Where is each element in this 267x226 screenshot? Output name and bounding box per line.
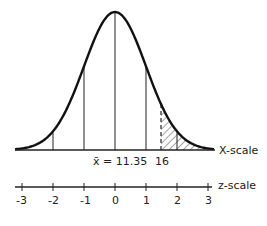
mean-label: x̄ = 11.35 — [93, 156, 147, 168]
marked-value-label: 16 — [155, 156, 169, 168]
x-scale-label: X-scale — [219, 145, 258, 157]
z-tick-label: -2 — [48, 195, 59, 207]
z-tick-label: 3 — [205, 195, 212, 207]
vertical-lines — [22, 13, 208, 150]
normal-curve-diagram — [0, 0, 267, 226]
z-scale-axis — [15, 183, 212, 191]
z-tick-label: 2 — [174, 195, 181, 207]
shaded-tail-region — [161, 104, 212, 150]
z-tick-label: -3 — [16, 195, 27, 207]
z-tick-label: -1 — [80, 195, 91, 207]
z-tick-label: 1 — [143, 195, 150, 207]
z-scale-label: z-scale — [218, 180, 256, 192]
z-tick-label: 0 — [112, 195, 119, 207]
